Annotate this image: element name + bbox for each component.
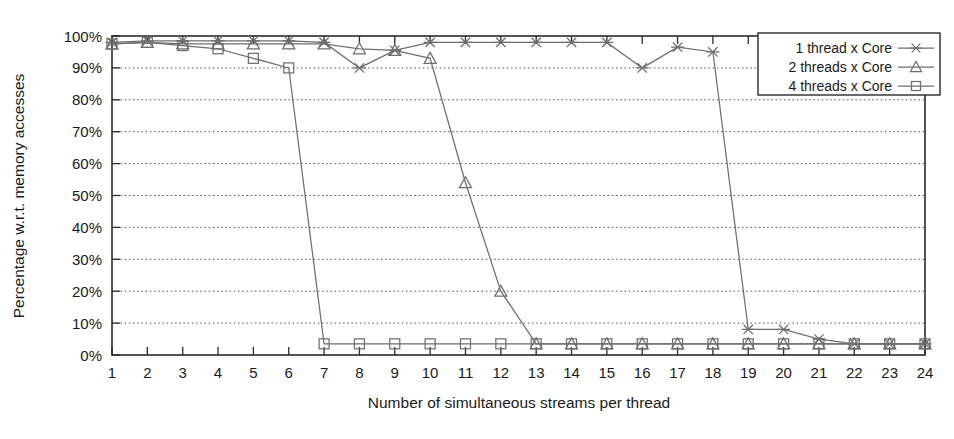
legend-label: 4 threads x Core <box>789 78 893 94</box>
chart-legend: 1 thread x Core2 threads x Core4 threads… <box>758 33 940 95</box>
x-tick-label: 18 <box>705 364 722 381</box>
x-tick-label: 2 <box>143 364 151 381</box>
y-tick-label: 50% <box>72 187 102 204</box>
x-tick-label: 22 <box>846 364 863 381</box>
x-tick-label: 19 <box>740 364 757 381</box>
legend-label: 2 threads x Core <box>789 59 893 75</box>
x-tick-label: 9 <box>391 364 399 381</box>
y-tick-label: 100% <box>64 28 102 45</box>
y-tick-label: 30% <box>72 251 102 268</box>
x-tick-label: 23 <box>881 364 898 381</box>
x-tick-label: 5 <box>249 364 257 381</box>
x-tick-label: 7 <box>320 364 328 381</box>
x-tick-label: 24 <box>917 364 934 381</box>
x-tick-label: 3 <box>179 364 187 381</box>
x-tick-label: 11 <box>458 364 474 381</box>
x-tick-label: 15 <box>599 364 616 381</box>
x-tick-label: 20 <box>775 364 792 381</box>
y-tick-label: 0% <box>80 347 102 364</box>
chart-figure: 0%10%20%30%40%50%60%70%80%90%100% 123456… <box>0 0 954 439</box>
x-tick-label: 13 <box>528 364 545 381</box>
x-tick-label: 14 <box>563 364 580 381</box>
y-tick-label: 90% <box>72 59 102 76</box>
x-tick-label: 10 <box>422 364 439 381</box>
x-axis-title: Number of simultaneous streams per threa… <box>368 394 670 411</box>
y-tick-label: 60% <box>72 155 102 172</box>
y-tick-label: 20% <box>72 283 102 300</box>
y-axis-title: Percentage w.r.t. memory accesses <box>10 73 27 318</box>
y-tick-label: 80% <box>72 91 102 108</box>
x-tick-label: 16 <box>634 364 651 381</box>
x-tick-label: 12 <box>492 364 509 381</box>
x-tick-label: 6 <box>285 364 293 381</box>
line-chart: 0%10%20%30%40%50%60%70%80%90%100% 123456… <box>0 0 954 439</box>
x-tick-label: 17 <box>669 364 686 381</box>
y-tick-label: 40% <box>72 219 102 236</box>
x-tick-label: 4 <box>214 364 222 381</box>
y-tick-label: 70% <box>72 123 102 140</box>
x-tick-label: 21 <box>811 364 828 381</box>
legend-label: 1 thread x Core <box>796 40 893 56</box>
x-tick-label: 8 <box>355 364 363 381</box>
x-tick-label: 1 <box>108 364 116 381</box>
y-tick-label: 10% <box>72 315 102 332</box>
